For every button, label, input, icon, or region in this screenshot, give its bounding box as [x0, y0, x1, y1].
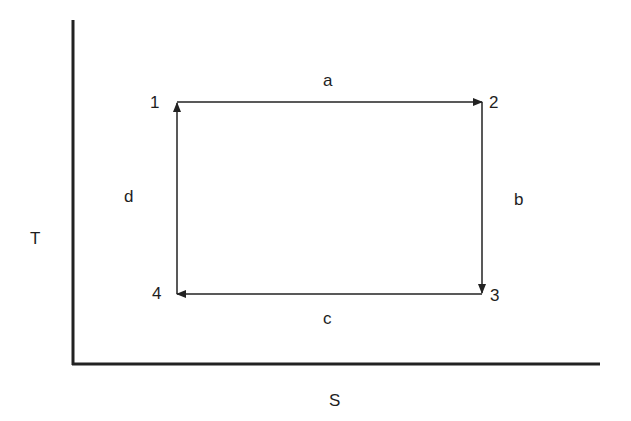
- process-d-label: d: [124, 188, 133, 205]
- state-1-label: 1: [150, 94, 159, 111]
- state-4-label: 4: [152, 285, 161, 302]
- y-axis-label: T: [30, 230, 40, 247]
- state-3-label: 3: [490, 287, 499, 304]
- state-2-label: 2: [489, 94, 498, 111]
- process-c-label: c: [323, 310, 332, 327]
- process-b-label: b: [514, 191, 523, 208]
- process-a-label: a: [323, 72, 332, 89]
- ts-diagram: [0, 0, 631, 421]
- x-axis-label: S: [329, 392, 340, 409]
